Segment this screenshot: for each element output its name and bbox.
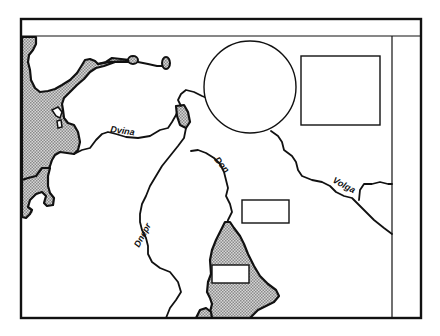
river-volga-tributary xyxy=(359,182,392,200)
label-dnepr: Dnepr xyxy=(132,221,153,249)
island xyxy=(57,120,62,128)
placeholder-box-upper-right xyxy=(301,56,380,125)
lake-ilmen xyxy=(176,105,190,128)
placeholder-box-middle xyxy=(242,200,289,223)
placeholder-box-sea xyxy=(212,265,249,283)
river-north xyxy=(178,90,207,106)
crimea-tip xyxy=(196,308,212,318)
map-canvas: Dvina Dnepr Don Volga xyxy=(0,0,440,336)
placeholder-circle xyxy=(204,41,296,133)
lake-small xyxy=(162,57,170,69)
label-don: Don xyxy=(212,155,231,175)
label-dvina: Dvina xyxy=(110,124,136,137)
lake-small xyxy=(128,56,138,64)
